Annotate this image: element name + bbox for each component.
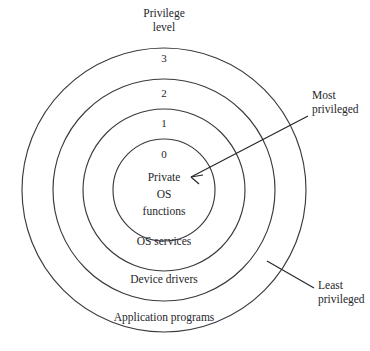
privilege-level-header: Privilege level xyxy=(143,6,185,35)
ring-label-application-programs: Application programs xyxy=(114,311,215,325)
core-label-line3: functions xyxy=(143,205,186,219)
least-privileged-label-line1: Least xyxy=(318,278,365,292)
privilege-level-header-line2: level xyxy=(143,20,185,34)
most-privileged-label-line1: Most xyxy=(312,88,359,102)
ring-number-2: 2 xyxy=(161,87,167,100)
core-label-line1: Private xyxy=(148,171,181,185)
privilege-ring-diagram: Privilege level 3 2 1 0 Private OS funct… xyxy=(0,0,370,351)
ring-label-device-drivers: Device drivers xyxy=(130,273,197,287)
ring-number-0: 0 xyxy=(161,148,167,161)
least-privileged-leader xyxy=(267,261,314,288)
most-privileged-leader-line xyxy=(191,116,308,177)
most-privileged-label: Most privileged xyxy=(312,88,359,117)
ring-number-1: 1 xyxy=(161,117,167,130)
most-privileged-arrowhead-lower xyxy=(191,177,199,184)
most-privileged-label-line2: privileged xyxy=(312,102,359,116)
ring-number-3: 3 xyxy=(161,52,167,65)
core-label-line2: OS xyxy=(157,188,172,202)
least-privileged-leader-line xyxy=(267,261,314,288)
least-privileged-label: Least privileged xyxy=(318,278,365,307)
ring-label-os-services: OS services xyxy=(137,235,192,249)
privilege-level-header-line1: Privilege xyxy=(143,6,185,20)
least-privileged-label-line2: privileged xyxy=(318,292,365,306)
diagram-canvas xyxy=(0,0,370,351)
